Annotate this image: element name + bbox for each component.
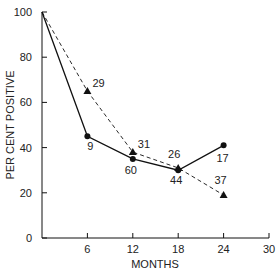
- line-chart: 612182430020406080100 960441729312637 MO…: [0, 0, 276, 274]
- y-tick-label: 40: [20, 142, 32, 154]
- data-point-label: 31: [138, 138, 150, 150]
- y-tick-label: 100: [14, 6, 32, 18]
- y-tick-label: 60: [20, 96, 32, 108]
- point-labels: 960441729312637: [87, 77, 228, 186]
- triangle-marker: [83, 87, 91, 94]
- data-point-label: 9: [87, 140, 93, 152]
- x-tick-label: 18: [172, 243, 184, 255]
- data-point-label: 44: [170, 174, 182, 186]
- data-point-label: 60: [125, 164, 137, 176]
- y-tick-label: 80: [20, 51, 32, 63]
- data-point-label: 37: [214, 174, 226, 186]
- circle-marker: [84, 133, 90, 139]
- triangle-marker: [129, 148, 137, 155]
- circle-marker: [130, 156, 136, 162]
- x-tick-label: 24: [217, 243, 229, 255]
- x-axis-title: MONTHS: [131, 258, 179, 270]
- data-point-label: 17: [216, 152, 228, 164]
- x-tick-label: 6: [84, 243, 90, 255]
- triangle-marker: [220, 191, 228, 198]
- y-tick-label: 0: [26, 232, 32, 244]
- x-tick-label: 30: [263, 243, 275, 255]
- solid-circles-line: [42, 12, 224, 170]
- x-tick-label: 12: [127, 243, 139, 255]
- circle-marker: [221, 142, 227, 148]
- y-tick-label: 20: [20, 187, 32, 199]
- y-axis-title: PER CENT POSITIVE: [4, 70, 16, 179]
- data-point-label: 29: [92, 77, 104, 89]
- data-point-label: 26: [168, 148, 180, 160]
